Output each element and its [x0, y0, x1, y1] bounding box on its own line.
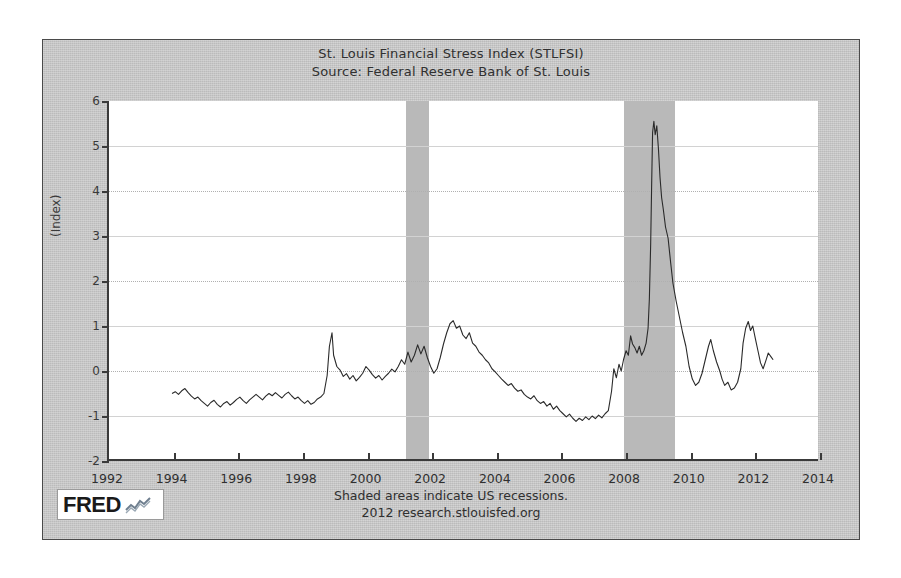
chart-panel: St. Louis Financial Stress Index (STLFSI… — [42, 39, 860, 540]
x-axis-tick-label: 1998 — [285, 471, 317, 486]
y-axis-tick — [102, 371, 109, 373]
chart-footer: Shaded areas indicate US recessions. 201… — [43, 487, 859, 521]
series-line — [172, 121, 773, 421]
y-axis-tick-label: 4 — [92, 184, 100, 198]
x-axis-tick-label: 1996 — [220, 471, 252, 486]
x-axis-tick-label: 1994 — [156, 471, 188, 486]
y-axis-tick — [102, 191, 109, 193]
y-axis-tick-label: 5 — [92, 139, 100, 153]
y-axis-tick-label: 3 — [92, 229, 100, 243]
x-axis-tick-label: 2000 — [350, 471, 382, 486]
x-axis-tick-label: 2006 — [544, 471, 576, 486]
chart-source: Source: Federal Reserve Bank of St. Loui… — [43, 63, 859, 81]
chart-title-block: St. Louis Financial Stress Index (STLFSI… — [43, 45, 859, 81]
y-axis-title: (Index) — [49, 195, 63, 237]
x-axis-tick-label: 2008 — [608, 471, 640, 486]
y-axis-tick — [102, 146, 109, 148]
y-axis-tick — [102, 101, 109, 103]
y-axis-tick-label: -1 — [88, 409, 100, 423]
fred-logo-text: FRED — [63, 494, 121, 516]
y-axis-tick-label: -2 — [88, 454, 100, 468]
x-axis-tick-label: 1992 — [91, 471, 123, 486]
fred-logo: FRED — [57, 489, 164, 520]
fred-chart-screenshot: St. Louis Financial Stress Index (STLFSI… — [0, 0, 901, 578]
y-axis-tick — [102, 236, 109, 238]
x-axis-tick-label: 2002 — [414, 471, 446, 486]
source-url: 2012 research.stlouisfed.org — [43, 504, 859, 521]
y-axis-tick — [102, 416, 109, 418]
x-axis-tick-label: 2004 — [479, 471, 511, 486]
x-axis-labels: 1992199419961998200020022004200620082010… — [107, 459, 816, 483]
chart-title: St. Louis Financial Stress Index (STLFSI… — [43, 45, 859, 63]
y-axis-tick-label: 6 — [92, 94, 100, 108]
x-axis-tick-label: 2014 — [802, 471, 834, 486]
plot-inner — [109, 101, 818, 459]
recession-note: Shaded areas indicate US recessions. — [43, 487, 859, 504]
x-axis-tick — [820, 453, 822, 460]
line-chart-icon — [125, 496, 151, 514]
x-axis-tick-label: 2012 — [737, 471, 769, 486]
y-axis-tick-label: 2 — [92, 274, 100, 288]
y-axis-tick-label: 0 — [92, 364, 100, 378]
series-stlfsi — [109, 101, 818, 459]
x-axis-tick-label: 2010 — [673, 471, 705, 486]
y-axis-tick — [102, 281, 109, 283]
y-axis-tick-label: 1 — [92, 319, 100, 333]
plot-area: -2-10123456 — [107, 101, 818, 461]
y-axis-tick — [102, 326, 109, 328]
